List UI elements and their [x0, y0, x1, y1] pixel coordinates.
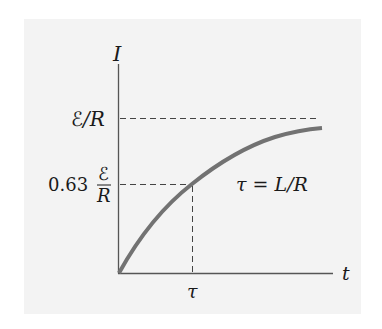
asymptote-label: ℰ/R [71, 107, 105, 131]
annotation-rest: = L/R [247, 173, 308, 195]
asymptote-label-e: ℰ [71, 107, 83, 131]
tau-tick-label: τ [187, 280, 198, 302]
asymptote-label-r: /R [81, 107, 105, 131]
annotation-tau: τ [236, 173, 247, 195]
frac-denominator: R [96, 185, 111, 206]
time-constant-annotation: τ = L/R [236, 173, 308, 195]
x-axis-label: t [342, 262, 350, 284]
chart: I t ℰ/R 0.63 ℰ R τ τ = L/R [0, 0, 382, 329]
frac-numerator: ℰ [98, 163, 109, 184]
current-curve [119, 128, 322, 273]
coef-label: 0.63 [48, 174, 88, 195]
y-axis-label: I [112, 42, 122, 66]
